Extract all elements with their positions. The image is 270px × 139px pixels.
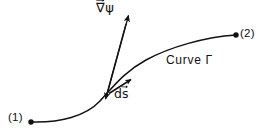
nabla-glyph: ∇: [96, 1, 105, 14]
s-with-hat-accent: s: [122, 88, 129, 101]
d-glyph: d: [114, 88, 122, 101]
psi-glyph: ψ: [105, 1, 114, 14]
s-glyph: s: [122, 88, 129, 101]
nabla-with-vector-accent: ∇: [96, 1, 105, 14]
curve-label: Curve Γ: [166, 54, 213, 66]
ds-vector-label: d s: [114, 88, 128, 101]
start-point-label: (1): [8, 112, 23, 124]
gradient-vector-label: ∇ ψ: [96, 1, 114, 14]
diagram-svg: [0, 0, 270, 139]
curve-gamma-path: [31, 35, 236, 122]
end-point-label: (2): [240, 28, 255, 40]
figure-canvas: (1) (2) Curve Γ ∇ ψ d s: [0, 0, 270, 139]
start-point-marker: [28, 119, 33, 124]
end-point-marker: [233, 32, 238, 37]
